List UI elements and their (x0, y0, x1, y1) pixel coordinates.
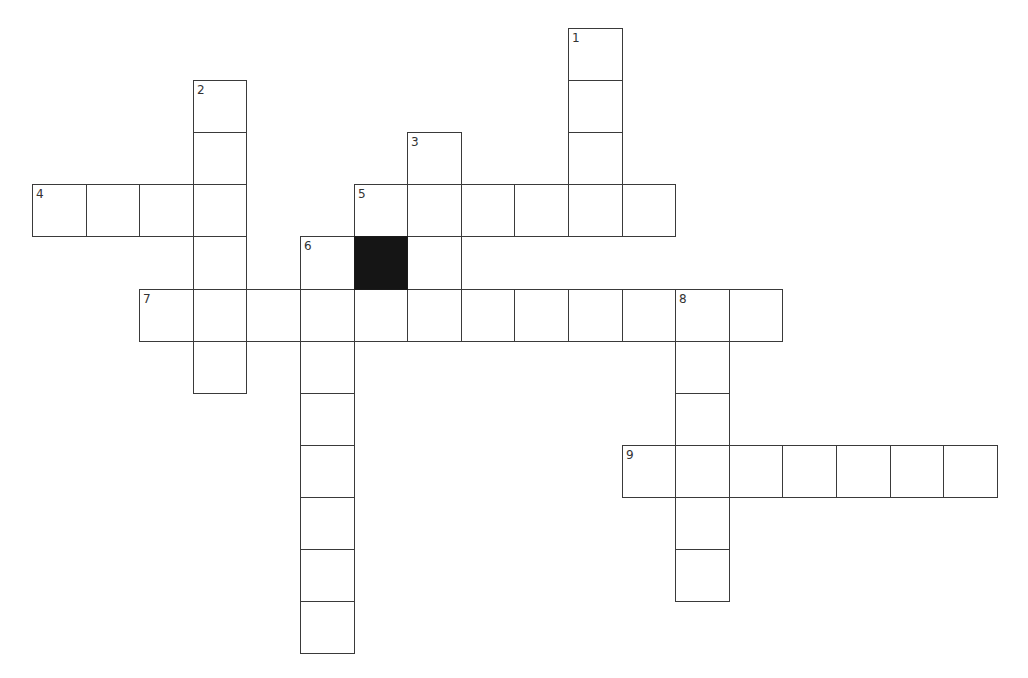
crossword-cell[interactable] (407, 236, 462, 290)
crossword-cell[interactable] (729, 289, 783, 342)
crossword-cell[interactable]: 8 (675, 289, 730, 342)
crossword-cell[interactable] (139, 184, 194, 237)
crossword-cell[interactable] (354, 289, 408, 342)
crossword-cell[interactable] (836, 445, 891, 498)
crossword-cell[interactable] (461, 289, 515, 342)
crossword-cell[interactable]: 2 (193, 80, 247, 133)
crossword-cell[interactable] (461, 184, 515, 237)
crossword-cell[interactable] (407, 184, 462, 237)
crossword-cell[interactable] (300, 393, 355, 446)
clue-number: 4 (36, 187, 44, 201)
crossword-cell[interactable] (568, 80, 623, 133)
crossword-cell[interactable] (193, 132, 247, 185)
crossword-cell[interactable] (193, 289, 247, 342)
crossword-cell[interactable] (622, 184, 676, 237)
crossword-cell[interactable] (782, 445, 837, 498)
clue-number: 1 (572, 31, 580, 45)
crossword-cell[interactable] (675, 445, 730, 498)
crossword-cell[interactable] (193, 184, 247, 237)
crossword-cell[interactable] (300, 549, 355, 602)
crossword-cell[interactable] (943, 445, 998, 498)
crossword-cell[interactable] (729, 445, 783, 498)
crossword-cell[interactable]: 1 (568, 28, 623, 81)
clue-number: 9 (626, 448, 634, 462)
crossword-cell[interactable] (890, 445, 944, 498)
crossword-cell[interactable] (300, 601, 355, 654)
crossword-cell[interactable]: 5 (354, 184, 408, 237)
crossword-cell[interactable] (86, 184, 140, 237)
crossword-cell[interactable]: 7 (139, 289, 194, 342)
clue-number: 2 (197, 83, 205, 97)
crossword-cell[interactable] (568, 132, 623, 185)
clue-number: 7 (143, 292, 151, 306)
crossword-cell[interactable] (193, 341, 247, 394)
clue-number: 6 (304, 239, 312, 253)
crossword-cell[interactable]: 4 (32, 184, 87, 237)
crossword-cell[interactable] (193, 236, 247, 290)
crossword-cell[interactable] (407, 289, 462, 342)
black-block-cell (354, 236, 408, 290)
crossword-cell[interactable] (622, 289, 676, 342)
crossword-cell[interactable] (514, 184, 569, 237)
crossword-cell[interactable] (675, 549, 730, 602)
crossword-cell[interactable] (246, 289, 301, 342)
crossword-cell[interactable]: 9 (622, 445, 676, 498)
crossword-grid: 123456789 (0, 0, 1028, 678)
crossword-cell[interactable] (300, 341, 355, 394)
crossword-cell[interactable] (300, 289, 355, 342)
crossword-cell[interactable] (568, 289, 623, 342)
crossword-cell[interactable] (300, 497, 355, 550)
clue-number: 8 (679, 292, 687, 306)
crossword-cell[interactable] (514, 289, 569, 342)
crossword-cell[interactable]: 6 (300, 236, 355, 290)
crossword-cell[interactable] (675, 497, 730, 550)
clue-number: 3 (411, 135, 419, 149)
crossword-cell[interactable] (300, 445, 355, 498)
crossword-cell[interactable] (675, 393, 730, 446)
crossword-cell[interactable] (568, 184, 623, 237)
crossword-cell[interactable] (675, 341, 730, 394)
crossword-cell[interactable]: 3 (407, 132, 462, 185)
clue-number: 5 (358, 187, 366, 201)
